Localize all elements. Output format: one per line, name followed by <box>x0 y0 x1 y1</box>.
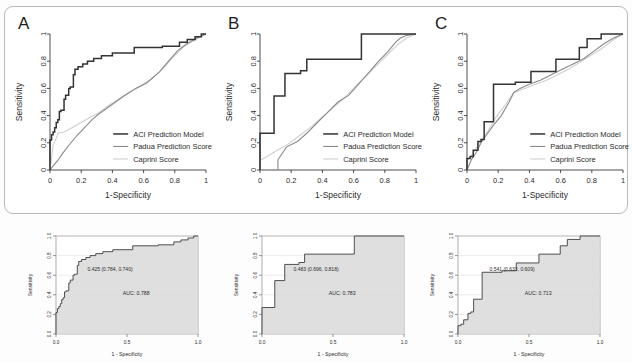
x-tick-label: 1 <box>204 176 208 185</box>
x-tick-label: 0.6 <box>555 176 565 185</box>
y-tick-label: 0.4 <box>47 291 52 298</box>
y-tick-label: 0.8 <box>253 252 258 259</box>
x-tick-label: 1 <box>621 176 625 185</box>
x-tick-label: 1.0 <box>401 340 408 345</box>
y-tick-label: 0 <box>456 168 465 172</box>
x-tick-label: 0.6 <box>348 176 358 185</box>
legend-label: ACI Prediction Model <box>550 130 621 139</box>
x-tick-label: 1 <box>414 176 418 185</box>
panel-a-top: A 00.20.40.60.8100.20.40.60.811-Specific… <box>4 6 214 214</box>
x-axis-label: 1-Specificity <box>105 190 152 200</box>
y-tick-label: 0.6 <box>47 272 52 279</box>
y-axis-label: Sensitivity <box>14 82 24 121</box>
x-tick-label: 0.2 <box>286 176 296 185</box>
legend-label: Padua Prediction Score <box>343 142 422 151</box>
panel-b-auc-plot: 0.00.20.40.60.81.00.00.51.01 - Specifici… <box>228 222 428 362</box>
panel-a-roc-plot: 00.20.40.60.8100.20.40.60.811-Specificit… <box>4 6 214 214</box>
y-tick-label: 1 <box>456 32 465 36</box>
y-axis-label: Sensitivity <box>233 273 239 296</box>
x-tick-label: 0 <box>258 176 262 185</box>
y-tick-label: 0.8 <box>449 252 454 259</box>
y-tick-label: 0.6 <box>249 83 258 93</box>
y-tick-label: 0.4 <box>249 110 258 120</box>
y-tick-label: 0 <box>249 168 258 172</box>
y-tick-label: 0.6 <box>449 272 454 279</box>
y-tick-label: 0.2 <box>47 311 52 318</box>
y-tick-label: 0.8 <box>249 56 258 66</box>
legend-label: Caprini Score <box>343 155 388 164</box>
y-tick-label: 1.0 <box>449 232 454 239</box>
x-tick-label: 0.5 <box>124 340 131 345</box>
x-tick-label: 0.4 <box>524 176 534 185</box>
panel-b-letter: B <box>228 14 239 34</box>
y-axis-label: Sensitivity <box>429 273 435 296</box>
x-tick-label: 0.0 <box>53 340 60 345</box>
auc-label: AUC: 0.713 <box>525 290 552 296</box>
panel-c-bottom: 0.00.20.40.60.81.00.00.51.01 - Specifici… <box>424 222 632 362</box>
y-tick-label: 0.8 <box>39 56 48 66</box>
x-axis-label: 1 - Specificity <box>514 351 545 357</box>
y-tick-label: 0.6 <box>456 83 465 93</box>
x-axis-label: 1 - Specificity <box>318 351 349 357</box>
panel-c-roc-plot: 00.20.40.60.8100.20.40.60.811-Specificit… <box>421 6 631 214</box>
auc-label: AUC: 0.788 <box>123 290 150 296</box>
x-tick-label: 0.8 <box>380 176 390 185</box>
panel-a-bottom: 0.00.20.40.60.81.00.00.51.01 - Specifici… <box>22 222 232 362</box>
y-tick-label: 0.2 <box>253 311 258 318</box>
y-axis-label: Sensitivity <box>224 82 234 121</box>
x-tick-label: 0.0 <box>259 340 266 345</box>
y-tick-label: 0.4 <box>456 110 465 120</box>
y-tick-label: 0.0 <box>449 330 454 337</box>
legend-label: Padua Prediction Score <box>550 142 629 151</box>
panel-a-auc-plot: 0.00.20.40.60.81.00.00.51.01 - Specifici… <box>22 222 222 362</box>
roc-figure: A 00.20.40.60.8100.20.40.60.811-Specific… <box>0 0 632 363</box>
x-tick-label: 1.0 <box>195 340 202 345</box>
y-tick-label: 0.4 <box>253 291 258 298</box>
auc-label: AUC: 0.783 <box>329 290 356 296</box>
y-tick-label: 0.4 <box>449 291 454 298</box>
x-tick-label: 0.2 <box>493 176 503 185</box>
x-axis-label: 1-Specificity <box>522 190 569 200</box>
panel-c-letter: C <box>435 14 447 34</box>
x-axis-label: 1 - Specificity <box>112 351 143 357</box>
legend-label: ACI Prediction Model <box>133 130 204 139</box>
legend-label: Caprini Score <box>133 155 178 164</box>
y-tick-label: 1.0 <box>47 232 52 239</box>
x-tick-label: 0.6 <box>138 176 148 185</box>
y-tick-label: 1 <box>39 32 48 36</box>
y-tick-label: 0.6 <box>39 83 48 93</box>
y-tick-label: 0.2 <box>39 138 48 148</box>
x-tick-label: 0.2 <box>76 176 86 185</box>
x-tick-label: 0.8 <box>170 176 180 185</box>
x-tick-label: 0.8 <box>587 176 597 185</box>
x-tick-label: 0.4 <box>317 176 327 185</box>
y-axis-label: Sensitivity <box>27 273 33 296</box>
cutpoint-label: 0.425 (0.784, 0.740) <box>88 266 133 272</box>
panel-a-letter: A <box>18 14 29 34</box>
legend-label: Padua Prediction Score <box>133 142 212 151</box>
y-tick-label: 0 <box>39 168 48 172</box>
panel-c-auc-plot: 0.00.20.40.60.81.00.00.51.01 - Specifici… <box>424 222 624 362</box>
y-tick-label: 1.0 <box>253 232 258 239</box>
y-tick-label: 0.2 <box>456 138 465 148</box>
panel-b-roc-plot: 00.20.40.60.8100.20.40.60.811-Specificit… <box>214 6 424 214</box>
y-axis-label: Sensitivity <box>431 82 441 121</box>
x-tick-label: 1.0 <box>597 340 604 345</box>
y-tick-label: 0.8 <box>47 252 52 259</box>
y-tick-label: 0.4 <box>39 110 48 120</box>
y-tick-label: 0.0 <box>253 330 258 337</box>
y-tick-label: 0.8 <box>456 56 465 66</box>
x-axis-label: 1-Specificity <box>315 190 362 200</box>
y-tick-label: 0.2 <box>449 311 454 318</box>
x-tick-label: 0.5 <box>330 340 337 345</box>
x-tick-label: 0.5 <box>526 340 533 345</box>
panel-b-top: B 00.20.40.60.8100.20.40.60.811-Specific… <box>214 6 424 214</box>
x-tick-label: 0 <box>48 176 52 185</box>
y-tick-label: 1 <box>249 32 258 36</box>
x-tick-label: 0.0 <box>455 340 462 345</box>
legend-label: ACI Prediction Model <box>343 130 414 139</box>
x-tick-label: 0.4 <box>107 176 117 185</box>
legend-label: Caprini Score <box>550 155 595 164</box>
cutpoint-label: 0.541 (0.633, 0.609) <box>490 266 535 272</box>
cutpoint-label: 0.483 (0.696, 0.818) <box>294 266 339 272</box>
